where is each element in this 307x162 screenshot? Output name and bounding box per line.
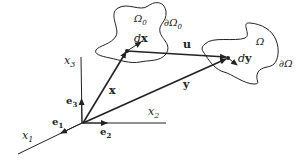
x-position-vector [83, 52, 126, 123]
x-vector-label: x [109, 84, 116, 97]
x3-axis-label: x3 [64, 54, 75, 69]
e3-label: e3 [66, 95, 77, 109]
deformation-diagram: x3 x2 x1 e3 e2 e1 x y u dx dy Ω0 ∂Ω0 Ω ∂… [0, 0, 307, 162]
u-vector-label: u [183, 38, 191, 51]
boundary-label: ∂Ω [279, 58, 292, 69]
e2-label: e2 [100, 126, 111, 140]
diagram-canvas: x3 x2 x1 e3 e2 e1 x y u dx dy Ω0 ∂Ω0 Ω ∂… [0, 0, 307, 162]
reference-point [125, 49, 129, 53]
u-displacement-vector [127, 51, 226, 57]
current-point [226, 56, 230, 60]
x1-axis-label: x1 [22, 129, 33, 144]
y-vector-label: y [182, 78, 190, 91]
x2-axis-label: x2 [148, 105, 159, 120]
omega0-label: Ω0 [133, 13, 147, 27]
dy-label: dy [238, 52, 252, 65]
e1-vector [61, 123, 82, 133]
dx-label: dx [134, 32, 148, 45]
e1-label: e1 [52, 116, 63, 130]
boundary0-label: ∂Ω0 [164, 17, 182, 31]
omega-label: Ω [255, 36, 264, 47]
e3-vector [82, 99, 83, 123]
